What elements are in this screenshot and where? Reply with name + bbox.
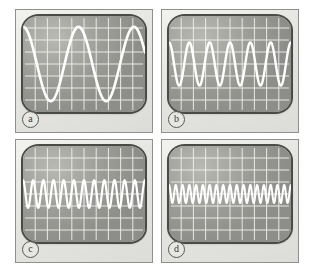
panel-label-d: d (168, 241, 185, 258)
panel-label-c: c (22, 241, 39, 258)
crt-screen (23, 146, 145, 242)
crt-screen (169, 146, 291, 242)
crt-screen-wrapper (169, 16, 291, 112)
graticule (25, 148, 143, 240)
waveform-canvas-b (169, 16, 291, 112)
graticule (171, 18, 289, 110)
oscilloscope-figure: a b c d (0, 0, 314, 269)
crt-screen (23, 16, 145, 112)
oscilloscope-panel-c: c (15, 139, 153, 263)
waveform-canvas-a (23, 16, 145, 112)
oscilloscope-panel-a: a (15, 9, 153, 133)
waveform-canvas-c (23, 146, 145, 242)
crt-screen-wrapper (169, 146, 291, 242)
graticule (171, 148, 289, 240)
crt-screen-wrapper (23, 16, 145, 112)
panel-label-a: a (22, 111, 39, 128)
crt-screen-wrapper (23, 146, 145, 242)
panel-label-b: b (168, 111, 185, 128)
waveform-canvas-d (169, 146, 291, 242)
oscilloscope-panel-b: b (161, 9, 299, 133)
crt-screen (169, 16, 291, 112)
oscilloscope-panel-d: d (161, 139, 299, 263)
